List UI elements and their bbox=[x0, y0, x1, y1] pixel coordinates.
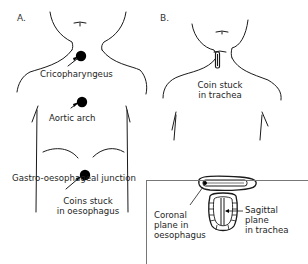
label-sagittal-plane: Sagittal plane in trachea bbox=[245, 205, 288, 235]
caption-coins-oesophagus: Coins stuck in oesophagus bbox=[38, 196, 138, 216]
label-coronal-plane: Coronal plane in oesophagus bbox=[154, 210, 206, 240]
panel-b-letter: B. bbox=[160, 13, 169, 23]
caption-b-line1: Coin stuck bbox=[190, 80, 250, 90]
coronal-line3: oesophagus bbox=[154, 230, 206, 240]
sagittal-line1: Sagittal bbox=[245, 205, 288, 215]
coin-cricopharyngeus bbox=[76, 51, 86, 61]
sagittal-line2: plane bbox=[245, 215, 288, 225]
caption-b-line2: in trachea bbox=[190, 90, 250, 100]
label-aortic-arch: Aortic arch bbox=[49, 113, 96, 123]
coronal-line2: plane in bbox=[154, 220, 206, 230]
panel-a-letter: A. bbox=[17, 13, 26, 23]
coronal-line1: Coronal bbox=[154, 210, 206, 220]
arrow-cricopharyngeus bbox=[68, 59, 77, 66]
coin-aortic-arch bbox=[77, 97, 87, 107]
caption-a-line1: Coins stuck bbox=[38, 196, 138, 206]
caption-a-line2: in oesophagus bbox=[38, 206, 138, 216]
label-ge-junction: Gastro-oesophageal junction bbox=[12, 173, 136, 183]
caption-coin-trachea: Coin stuck in trachea bbox=[190, 80, 250, 100]
sagittal-line3: in trachea bbox=[245, 225, 288, 235]
label-cricopharyngeus: Cricopharyngeus bbox=[40, 69, 113, 79]
